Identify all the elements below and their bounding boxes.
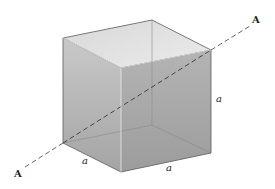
cube-drawing: [0, 0, 275, 189]
axis-label-start: A: [14, 169, 22, 179]
edge-label-right-vertical: a: [216, 94, 222, 104]
edge-label-bottom-left: a: [82, 156, 88, 166]
axis-line-lower: [25, 143, 63, 167]
cube-face-front: [121, 50, 211, 172]
axis-line-upper: [211, 26, 250, 50]
axis-label-end: A: [252, 15, 260, 25]
cube-diagram: A A a a a: [0, 0, 275, 189]
edge-label-bottom-front: a: [166, 163, 172, 173]
